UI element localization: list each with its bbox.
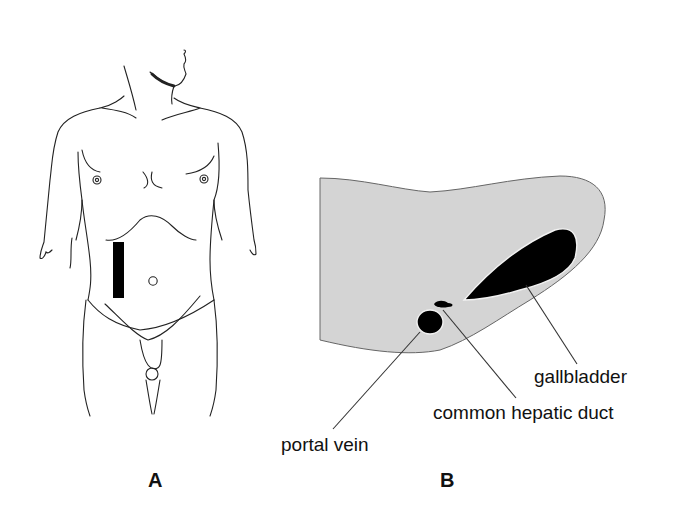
panel-letter-a: A xyxy=(148,470,162,490)
right-leg-outer xyxy=(210,300,217,416)
navel xyxy=(149,277,157,285)
right-nipple xyxy=(200,175,208,183)
left-arm-outer xyxy=(40,108,100,259)
chin-line xyxy=(150,50,186,86)
label-gallbladder: gallbladder xyxy=(534,367,627,386)
left-forearm-inner xyxy=(70,238,72,268)
torso-drawing xyxy=(40,50,256,416)
jaw-shadow xyxy=(152,74,174,86)
inner-thighs xyxy=(146,380,160,414)
label-portal-vein: portal vein xyxy=(281,435,369,454)
portal-vein-shape xyxy=(417,310,443,334)
right-pectoral xyxy=(186,156,214,174)
groin-outline xyxy=(140,340,162,369)
right-clavicle xyxy=(162,98,200,120)
gallbladder-leader xyxy=(526,285,577,364)
torso-left-side xyxy=(82,200,91,300)
left-leg-outer xyxy=(83,300,90,416)
inguinal-line xyxy=(105,296,200,340)
ribcage-arch xyxy=(106,216,196,241)
panel-letter-b: B xyxy=(440,470,454,490)
left-nipple xyxy=(93,176,101,184)
sternum-notch xyxy=(143,172,162,188)
left-nipple-center xyxy=(95,178,98,181)
torso-right-side xyxy=(210,200,214,300)
right-nipple-center xyxy=(202,177,205,180)
right-arm-outer xyxy=(200,108,256,255)
left-arm-inner-top xyxy=(76,152,82,240)
groin-circle xyxy=(146,368,158,380)
neck-left-line xyxy=(124,66,136,110)
right-arm-inner xyxy=(214,143,222,240)
transducer-marker xyxy=(113,242,124,298)
left-clavicle xyxy=(100,96,136,118)
left-pectoral xyxy=(82,150,100,172)
neck-right-line xyxy=(172,86,174,104)
label-common-hepatic-duct: common hepatic duct xyxy=(433,403,614,422)
lower-abdomen-line xyxy=(88,300,214,330)
